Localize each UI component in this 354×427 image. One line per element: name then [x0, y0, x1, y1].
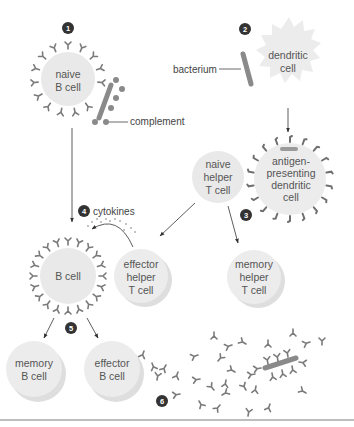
immune-response-diagram: 1 naive B cell complem	[0, 0, 354, 427]
svg-text:memory: memory	[235, 258, 274, 270]
step-4-badge: 4	[78, 205, 90, 217]
svg-text:T cell: T cell	[206, 184, 231, 196]
svg-text:6: 6	[160, 397, 164, 406]
svg-text:helper: helper	[126, 271, 156, 283]
memory-helper-t-cell: memory helper T cell	[227, 250, 285, 308]
effector-helper-t-cell: effector helper T cell	[114, 249, 172, 307]
svg-text:helper: helper	[203, 171, 233, 183]
svg-text:cell: cell	[283, 191, 299, 203]
svg-text:T cell: T cell	[242, 284, 267, 296]
svg-text:B cell: B cell	[55, 270, 81, 282]
step-6-badge: 6	[156, 395, 168, 407]
cytokine-dots-icon	[87, 218, 136, 233]
cytokine-arrow	[92, 224, 133, 247]
memory-b-cell: memory B cell	[6, 341, 66, 402]
step-1-badge: 1	[62, 22, 74, 34]
svg-text:helper: helper	[239, 271, 269, 283]
complement-label: complement	[130, 116, 185, 127]
svg-text:effector: effector	[124, 258, 159, 270]
bacterium-coated-with-antibodies-icon	[254, 350, 307, 381]
arrow-b-to-memory-b	[44, 318, 54, 338]
svg-text:T cell: T cell	[129, 284, 154, 296]
svg-text:dendritic: dendritic	[271, 179, 311, 191]
svg-text:3: 3	[244, 211, 248, 220]
cytokines-label: cytokines	[93, 206, 135, 217]
step-5-badge: 5	[65, 322, 77, 334]
svg-text:B cell: B cell	[21, 370, 47, 382]
svg-text:presenting: presenting	[266, 167, 315, 179]
arrow-naive-t-to-effector-t	[160, 203, 195, 236]
svg-text:B cell: B cell	[99, 370, 125, 382]
naive-helper-t-cell: naive helper T cell	[192, 151, 244, 203]
arrow-naive-t-to-memory-t	[228, 206, 238, 243]
svg-text:effector: effector	[95, 357, 130, 369]
svg-text:5: 5	[69, 324, 73, 333]
bottom-divider	[0, 419, 354, 421]
bacterium-label: bacterium	[173, 64, 217, 75]
svg-text:dendritic: dendritic	[268, 49, 308, 61]
b-cell: B cell	[30, 238, 106, 314]
bacterium-icon	[219, 54, 251, 84]
svg-text:naive: naive	[55, 68, 80, 80]
step-2-badge: 2	[239, 23, 251, 35]
step-3-badge: 3	[240, 209, 252, 221]
svg-text:naive: naive	[205, 158, 230, 170]
naive-b-cell: naive B cell	[31, 42, 105, 116]
svg-text:2: 2	[243, 25, 247, 34]
svg-text:1: 1	[66, 24, 70, 33]
svg-text:memory: memory	[15, 357, 54, 369]
svg-text:antigen-: antigen-	[272, 155, 310, 167]
svg-text:cell: cell	[280, 62, 296, 74]
dendritic-cell: dendritic cell	[256, 17, 321, 83]
bacterium-with-complement	[92, 77, 128, 125]
arrow-b-to-effector-b	[87, 318, 98, 338]
antigen-presenting-dendritic-cell: antigen- presenting dendritic cell	[247, 136, 332, 222]
effector-b-cell: effector B cell	[84, 341, 144, 402]
svg-text:B cell: B cell	[55, 81, 81, 93]
